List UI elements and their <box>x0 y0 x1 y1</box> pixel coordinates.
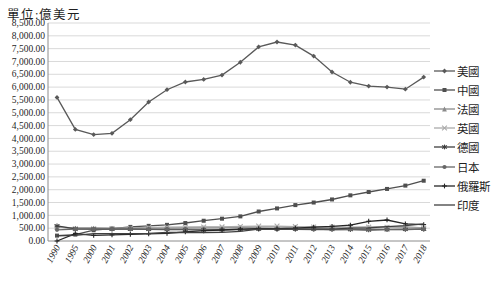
legend-item-japan: 日本 <box>434 157 490 176</box>
y-tick-label: 7,000.00 <box>12 57 46 67</box>
y-tick-label: 6,500.00 <box>12 69 46 79</box>
legend-item-china: 中國 <box>434 80 490 99</box>
x-tick-label: 2001 <box>100 243 118 264</box>
x-tick-label: 1995 <box>63 243 81 265</box>
x-tick-label: 2010 <box>265 243 283 265</box>
x-tick-label: 2004 <box>155 243 173 265</box>
y-tick-label: 4,500.00 <box>12 121 46 131</box>
x-tick-label: 2013 <box>320 243 338 265</box>
legend-item-france: 法國 <box>434 99 490 118</box>
y-tick-label: 3,000.00 <box>12 159 46 169</box>
y-tick-label: 5,500.00 <box>12 95 46 105</box>
legend-label: 德國 <box>457 139 479 155</box>
x-tick-label: 2009 <box>246 243 264 265</box>
x-tick-label: 2000 <box>81 243 99 265</box>
x-tick-label: 1990 <box>45 243 63 265</box>
x-tick-label: 2011 <box>283 243 300 264</box>
y-tick-label: 3,500.00 <box>12 146 46 156</box>
x-tick-label: 2003 <box>136 243 154 265</box>
legend-key-germany <box>434 142 455 152</box>
legend-label: 英國 <box>457 120 479 136</box>
y-tick-label: 2,500.00 <box>12 172 46 182</box>
legend-key-russia <box>434 181 455 191</box>
x-tick-label: 2015 <box>356 243 374 265</box>
line-chart-canvas: 0.00500.001,000.001,500.002,000.002,500.… <box>0 0 495 285</box>
y-tick-label: 500.00 <box>19 223 45 233</box>
y-tick-label: 1,000.00 <box>12 211 46 221</box>
legend-item-india: 印度 <box>434 195 490 214</box>
legend-label: 法國 <box>457 101 479 117</box>
legend-key-usa <box>434 66 455 76</box>
legend-item-germany: 德國 <box>434 138 490 157</box>
x-tick-label: 2018 <box>411 243 429 265</box>
x-tick-label: 2008 <box>228 243 246 265</box>
y-tick-label: 0.00 <box>28 236 45 246</box>
legend-key-uk <box>434 123 455 133</box>
y-tick-label: 7,500.00 <box>12 44 46 54</box>
legend-key-japan <box>434 162 455 172</box>
chart-legend: 美國中國法國英國德國日本俄羅斯印度 <box>434 61 490 215</box>
x-tick-label: 2002 <box>118 243 136 265</box>
chart-figure: 單位:億美元 0.00500.001,000.001,500.002,000.0… <box>0 0 495 285</box>
legend-label: 印度 <box>457 197 479 213</box>
x-tick-label: 2014 <box>338 243 356 265</box>
legend-label: 中國 <box>457 82 479 98</box>
y-tick-label: 8,500.00 <box>12 18 46 28</box>
y-tick-label: 4,000.00 <box>12 134 46 144</box>
legend-key-france <box>434 104 455 114</box>
legend-key-india <box>434 200 455 210</box>
legend-item-russia: 俄羅斯 <box>434 176 490 195</box>
x-tick-label: 2005 <box>173 243 191 265</box>
x-tick-label: 2012 <box>301 243 319 265</box>
legend-key-china <box>434 85 455 95</box>
legend-item-usa: 美國 <box>434 61 490 80</box>
legend-item-uk: 英國 <box>434 119 490 138</box>
y-tick-label: 8,000.00 <box>12 31 46 41</box>
x-tick-label: 2017 <box>393 242 411 265</box>
y-tick-label: 1,500.00 <box>12 198 46 208</box>
series-markers-usa <box>55 40 427 137</box>
y-tick-label: 5,000.00 <box>12 108 46 118</box>
y-tick-label: 6,000.00 <box>12 82 46 92</box>
legend-label: 日本 <box>457 159 479 175</box>
x-tick-label: 2007 <box>210 242 228 265</box>
legend-label: 俄羅斯 <box>457 178 490 194</box>
x-tick-label: 2006 <box>191 243 209 265</box>
x-tick-label: 2016 <box>375 243 393 265</box>
y-tick-label: 2,000.00 <box>12 185 46 195</box>
legend-label: 美國 <box>457 63 479 79</box>
